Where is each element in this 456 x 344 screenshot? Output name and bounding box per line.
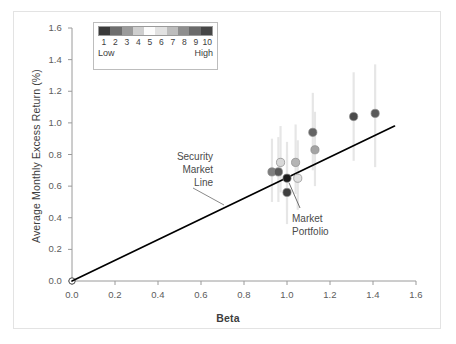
annotation-line: Line xyxy=(138,176,213,189)
legend-swatch-8 xyxy=(178,27,189,35)
data-point-decile-10 xyxy=(350,112,358,120)
x-tick-label: 1.2 xyxy=(310,289,350,300)
y-axis-title: Average Monthly Excess Return (%) xyxy=(30,56,42,256)
annotation-line: Market xyxy=(138,163,213,176)
y-tick-label: 0.0 xyxy=(30,275,62,286)
annotation-security-market-line: SecurityMarketLine xyxy=(138,150,213,189)
x-axis-title: Beta xyxy=(0,312,456,324)
data-point-decile-11 xyxy=(371,109,379,117)
legend-swatch-7 xyxy=(167,27,178,35)
data-point-decile-7 xyxy=(294,174,302,182)
legend-number: 3 xyxy=(121,37,133,47)
legend-end-labels: Low High xyxy=(98,48,213,58)
legend-swatch-1 xyxy=(99,27,110,35)
data-point-decile-9 xyxy=(311,146,319,154)
x-tick-label: 1.4 xyxy=(353,289,393,300)
data-point-decile-2 xyxy=(274,168,282,176)
legend-number: 7 xyxy=(167,37,179,47)
annotation-market-portfolio: MarketPortfolio xyxy=(292,212,372,238)
legend-number: 10 xyxy=(202,37,214,47)
legend-number: 8 xyxy=(179,37,191,47)
data-points xyxy=(268,109,379,196)
legend-swatch-5 xyxy=(144,27,155,35)
legend-number: 6 xyxy=(156,37,168,47)
legend-number: 4 xyxy=(133,37,145,47)
legend-swatch-9 xyxy=(189,27,200,35)
legend-swatch-6 xyxy=(155,27,166,35)
annotation-line: Security xyxy=(138,150,213,163)
annotation-line: Market xyxy=(292,212,372,225)
legend-low-label: Low xyxy=(98,48,115,58)
decile-legend: 12345678910 Low High xyxy=(93,22,218,70)
x-tick-label: 0.8 xyxy=(224,289,264,300)
x-tick-label: 1.6 xyxy=(396,289,436,300)
legend-swatch-10 xyxy=(201,27,212,35)
x-tick-label: 0.2 xyxy=(95,289,135,300)
data-point-decile-3 xyxy=(276,158,284,166)
legend-high-label: High xyxy=(194,48,213,58)
data-point-decile-6 xyxy=(292,158,300,166)
legend-number: 9 xyxy=(190,37,202,47)
data-point-decile-4 xyxy=(283,174,291,182)
legend-number: 5 xyxy=(144,37,156,47)
error-bars xyxy=(272,64,375,224)
legend-swatch-3 xyxy=(122,27,133,35)
legend-number: 1 xyxy=(98,37,110,47)
x-tick-label: 0.4 xyxy=(138,289,178,300)
y-tick-label: 1.6 xyxy=(30,22,62,33)
legend-swatch-2 xyxy=(110,27,121,35)
chart-figure: 0.00.20.40.60.81.01.21.41.6 0.00.20.40.6… xyxy=(0,0,456,344)
legend-swatch-4 xyxy=(133,27,144,35)
data-point-decile-5 xyxy=(283,188,291,196)
legend-number-row: 12345678910 xyxy=(98,37,213,47)
legend-number: 2 xyxy=(110,37,122,47)
x-tick-label: 0.6 xyxy=(181,289,221,300)
annotation-line: Portfolio xyxy=(292,225,372,238)
x-tick-label: 0.0 xyxy=(52,289,92,300)
data-point-decile-8 xyxy=(309,128,317,136)
security-market-line xyxy=(72,126,395,281)
x-tick-label: 1.0 xyxy=(267,289,307,300)
legend-color-swatches xyxy=(98,26,213,36)
